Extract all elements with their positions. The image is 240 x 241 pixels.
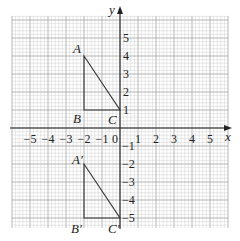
point-label-b: B (73, 111, 81, 126)
point-label-a: A (72, 41, 81, 56)
point-label-c-prime: C′ (108, 221, 120, 236)
x-tick: 3 (171, 132, 177, 146)
x-tick: −3 (60, 132, 73, 146)
coordinate-diagram: −5 −4 −3 −2 −1 0 1 2 3 4 5 x y 5 4 3 2 1… (0, 0, 240, 241)
point-label-a-prime: A′ (71, 152, 83, 167)
x-tick: 2 (153, 132, 159, 146)
y-tick: 5 (123, 31, 129, 45)
y-tick: −5 (122, 211, 135, 225)
x-tick: 1 (135, 132, 141, 146)
x-axis-label: x (224, 129, 231, 144)
x-tick: −1 (96, 132, 109, 146)
y-tick: 2 (123, 85, 129, 99)
y-tick: −4 (122, 193, 135, 207)
diagram-canvas: −5 −4 −3 −2 −1 0 1 2 3 4 5 x y 5 4 3 2 1… (0, 0, 240, 241)
axes (10, 6, 232, 229)
x-tick: −4 (42, 132, 55, 146)
x-tick: 5 (207, 132, 213, 146)
y-tick: 3 (123, 67, 129, 81)
y-tick: −3 (122, 175, 135, 189)
point-label-b-prime: B′ (71, 221, 82, 236)
y-tick: −2 (122, 157, 135, 171)
y-axis-label: y (107, 2, 115, 17)
x-tick: −2 (78, 132, 91, 146)
point-label-c: C (108, 112, 117, 127)
y-axis-arrow-icon (117, 6, 123, 14)
y-tick: 1 (123, 103, 129, 117)
y-tick: 4 (123, 49, 129, 63)
x-tick: −5 (24, 132, 37, 146)
x-tick: 4 (189, 132, 195, 146)
y-tick: −1 (122, 139, 135, 153)
origin-label: 0 (112, 132, 118, 146)
